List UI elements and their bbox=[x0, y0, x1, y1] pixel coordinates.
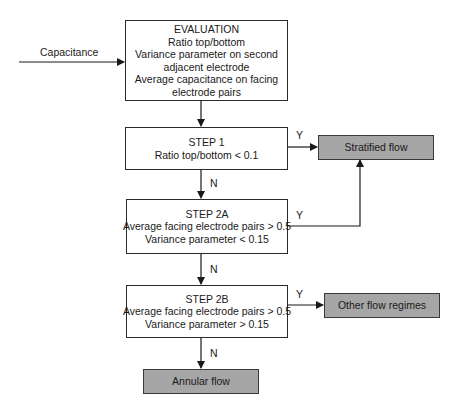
evaluation-box: EVALUATION Ratio top/bottom Variance par… bbox=[125, 20, 288, 101]
step1-condition: Ratio top/bottom < 0.1 bbox=[155, 149, 259, 162]
step1-title: STEP 1 bbox=[189, 136, 225, 149]
other-flow-regimes-label: Other flow regimes bbox=[338, 299, 426, 312]
evaluation-line: electrode pairs bbox=[172, 86, 241, 99]
stratified-flow-box: Stratified flow bbox=[318, 135, 434, 160]
other-flow-regimes-box: Other flow regimes bbox=[324, 293, 440, 318]
step2b-title: STEP 2B bbox=[186, 293, 229, 306]
stratified-flow-label: Stratified flow bbox=[344, 141, 407, 154]
annular-flow-label: Annular flow bbox=[172, 375, 230, 388]
step1-yes-label: Y bbox=[296, 129, 303, 141]
step2a-yes-label: Y bbox=[296, 209, 303, 221]
step2b-box: STEP 2B Average facing electrode pairs >… bbox=[126, 285, 288, 338]
evaluation-title: EVALUATION bbox=[174, 23, 239, 36]
step2a-condition: Average facing electrode pairs > 0.5 bbox=[123, 220, 291, 233]
evaluation-line: Ratio top/bottom bbox=[168, 36, 245, 49]
evaluation-line: Average capacitance on facing bbox=[135, 73, 278, 86]
annular-flow-box: Annular flow bbox=[143, 369, 259, 394]
step1-box: STEP 1 Ratio top/bottom < 0.1 bbox=[125, 127, 288, 170]
evaluation-line: adjacent electrode bbox=[164, 61, 250, 74]
step1-no-label: N bbox=[210, 177, 218, 189]
step2b-condition: Variance parameter > 0.15 bbox=[145, 318, 269, 331]
step2a-condition: Variance parameter < 0.15 bbox=[145, 233, 269, 246]
input-label: Capacitance bbox=[40, 46, 98, 58]
evaluation-line: Variance parameter on second bbox=[135, 48, 278, 61]
step2a-no-label: N bbox=[210, 263, 218, 275]
step2a-box: STEP 2A Average facing electrode pairs >… bbox=[126, 199, 288, 254]
step2a-title: STEP 2A bbox=[186, 208, 229, 221]
step2b-no-label: N bbox=[210, 347, 218, 359]
step2b-yes-label: Y bbox=[296, 288, 303, 300]
step2b-condition: Average facing electrode pairs > 0.5 bbox=[123, 305, 291, 318]
